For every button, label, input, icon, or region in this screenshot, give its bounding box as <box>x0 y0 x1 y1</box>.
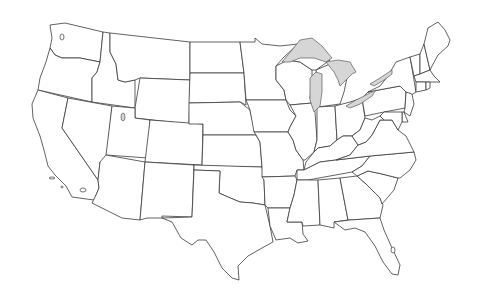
state-iowa <box>246 100 296 132</box>
lake-okeechobee <box>391 247 395 253</box>
great-salt-lake <box>121 113 125 121</box>
state-new-jersey <box>404 92 414 116</box>
state-arizona <box>92 155 145 220</box>
state-north-dakota <box>190 42 244 73</box>
state-colorado <box>145 120 203 165</box>
state-wyoming <box>135 78 190 124</box>
state-montana <box>110 33 190 82</box>
state-florida <box>334 218 400 275</box>
channel-island <box>49 177 55 179</box>
puget-sound-island <box>60 34 64 40</box>
us-outline-map: United States outline map <box>0 0 483 299</box>
channel-island-2 <box>61 186 63 188</box>
state-connecticut <box>416 82 426 92</box>
state-kansas <box>202 135 262 167</box>
lake-michigan <box>310 72 322 112</box>
state-rhode-island <box>426 82 430 90</box>
state-pennsylvania <box>362 86 406 116</box>
salton-sea <box>80 188 86 192</box>
state-new-mexico <box>140 162 194 220</box>
map-canvas <box>0 0 483 299</box>
state-south-dakota <box>189 73 246 105</box>
